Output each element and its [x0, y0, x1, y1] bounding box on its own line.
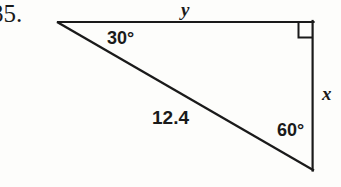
triangle-hypotenuse: [58, 23, 313, 171]
hypotenuse-length-label: 12.4: [152, 108, 189, 127]
angle-label-30-degrees: 30°: [107, 29, 134, 47]
right-angle-marker-icon: [299, 23, 314, 38]
figure-canvas: 35. y 30° 12.4 60° x: [0, 0, 341, 187]
triangle-diagram: [0, 0, 341, 187]
problem-number: 35.: [0, 1, 22, 26]
side-label-x: x: [322, 84, 332, 103]
angle-label-60-degrees: 60°: [277, 121, 304, 139]
side-label-y: y: [181, 0, 189, 19]
